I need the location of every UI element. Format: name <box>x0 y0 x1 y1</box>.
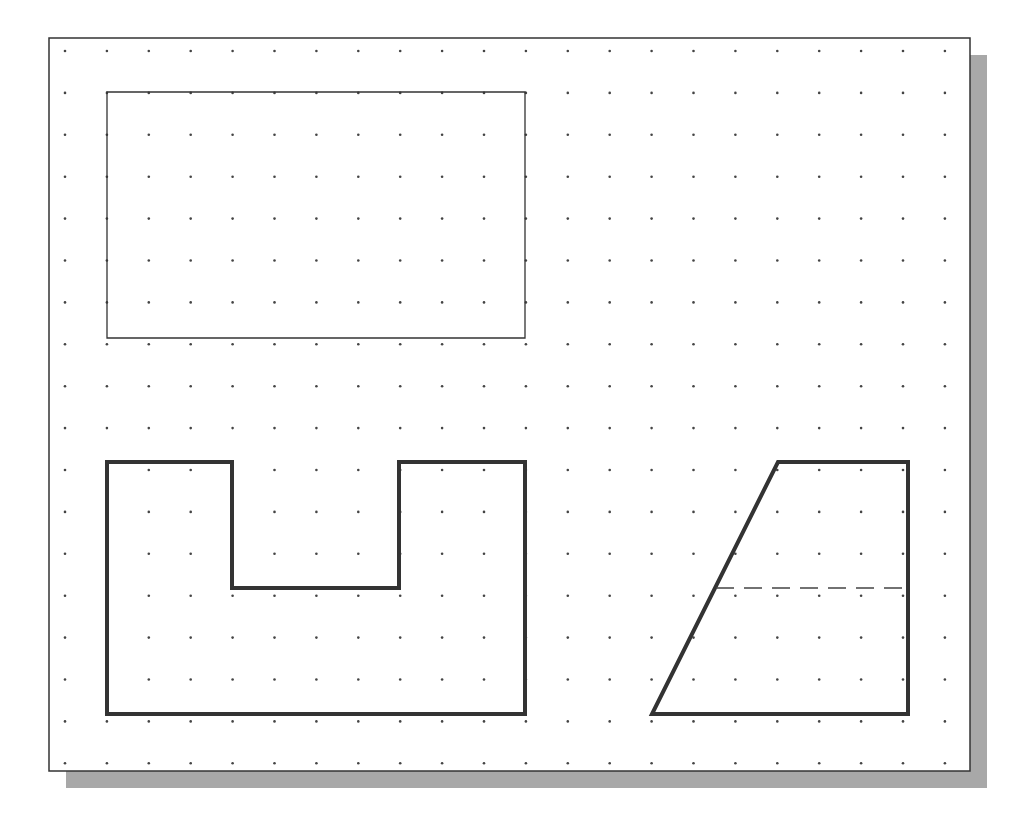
grid-dot <box>692 343 695 346</box>
grid-dot <box>399 427 402 430</box>
grid-dot <box>818 594 821 597</box>
grid-dot <box>692 301 695 304</box>
grid-dot <box>357 385 360 388</box>
grid-dot <box>944 553 947 556</box>
grid-dot <box>860 301 863 304</box>
grid-dot <box>902 301 905 304</box>
grid-dot <box>692 217 695 220</box>
grid-dot <box>64 678 67 681</box>
grid-dot <box>650 92 653 95</box>
grid-dot <box>860 469 863 472</box>
grid-dot <box>692 427 695 430</box>
grid-dot <box>148 553 151 556</box>
grid-dot <box>231 427 234 430</box>
grid-dot <box>357 343 360 346</box>
grid-dot <box>273 594 276 597</box>
grid-dot <box>189 720 192 723</box>
grid-dot <box>944 134 947 137</box>
grid-dot <box>231 134 234 137</box>
grid-dot <box>902 92 905 95</box>
grid-dot <box>148 259 151 262</box>
grid-dot <box>860 134 863 137</box>
grid-dot <box>399 259 402 262</box>
grid-dot <box>734 720 737 723</box>
grid-dot <box>483 678 486 681</box>
grid-dot <box>64 762 67 765</box>
grid-dot <box>64 175 67 178</box>
grid-dot <box>315 678 318 681</box>
grid-dot <box>860 217 863 220</box>
grid-dot <box>357 636 360 639</box>
grid-dot <box>189 511 192 514</box>
grid-dot <box>692 50 695 53</box>
grid-dot <box>818 134 821 137</box>
grid-dot <box>567 134 570 137</box>
grid-dot <box>902 175 905 178</box>
grid-dot <box>441 762 444 765</box>
grid-dot <box>441 217 444 220</box>
grid-dot <box>441 511 444 514</box>
grid-dot <box>148 678 151 681</box>
grid-dot <box>483 259 486 262</box>
grid-dot <box>944 469 947 472</box>
grid-dot <box>64 217 67 220</box>
grid-dot <box>106 427 109 430</box>
grid-dot <box>399 720 402 723</box>
grid-dot <box>315 762 318 765</box>
grid-dot <box>273 50 276 53</box>
grid-dot <box>148 343 151 346</box>
grid-dot <box>650 134 653 137</box>
grid-dot <box>608 259 611 262</box>
grid-dot <box>734 511 737 514</box>
grid-dot <box>483 343 486 346</box>
grid-dot <box>483 385 486 388</box>
grid-dot <box>902 50 905 53</box>
grid-dot <box>357 259 360 262</box>
grid-dot <box>567 92 570 95</box>
grid-dot <box>567 50 570 53</box>
grid-dot <box>902 553 905 556</box>
grid-dot <box>441 385 444 388</box>
grid-dot <box>399 217 402 220</box>
grid-dot <box>273 678 276 681</box>
grid-dot <box>902 259 905 262</box>
grid-dot <box>734 469 737 472</box>
grid-dot <box>189 553 192 556</box>
grid-dot <box>189 427 192 430</box>
grid-dot <box>357 301 360 304</box>
grid-dot <box>567 427 570 430</box>
grid-dot <box>399 50 402 53</box>
grid-dot <box>315 469 318 472</box>
grid-dot <box>273 553 276 556</box>
grid-dot <box>357 762 360 765</box>
grid-dot <box>944 762 947 765</box>
grid-dot <box>148 762 151 765</box>
grid-dot <box>944 511 947 514</box>
grid-dot <box>944 343 947 346</box>
grid-dot <box>106 343 109 346</box>
grid-dot <box>441 594 444 597</box>
grid-dot <box>818 259 821 262</box>
grid-dot <box>399 134 402 137</box>
grid-dot <box>567 762 570 765</box>
grid-dot <box>189 301 192 304</box>
grid-dot <box>902 636 905 639</box>
grid-dot <box>357 594 360 597</box>
grid-dot <box>399 175 402 178</box>
grid-dot <box>734 217 737 220</box>
grid-dot <box>231 594 234 597</box>
grid-dot <box>64 134 67 137</box>
grid-dot <box>441 50 444 53</box>
grid-dot <box>860 511 863 514</box>
grid-dot <box>315 259 318 262</box>
grid-dot <box>525 427 528 430</box>
grid-dot <box>608 134 611 137</box>
grid-dot <box>525 720 528 723</box>
grid-dot <box>231 720 234 723</box>
grid-dot <box>608 343 611 346</box>
grid-dot <box>776 301 779 304</box>
grid-dot <box>189 343 192 346</box>
grid-dot <box>692 511 695 514</box>
grid-dot <box>734 134 737 137</box>
grid-dot <box>148 217 151 220</box>
